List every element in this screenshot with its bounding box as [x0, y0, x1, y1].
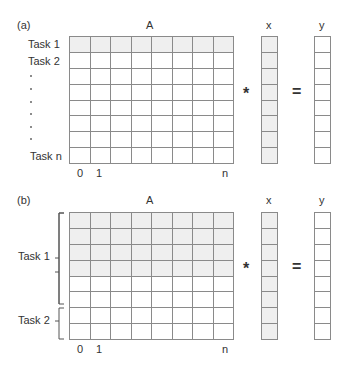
- matrix-cell: [111, 213, 132, 229]
- matrix-cell: [91, 101, 112, 117]
- matrix-cell: [315, 292, 331, 308]
- col-label-n: n: [222, 167, 228, 179]
- matrix-a-grid: [69, 212, 234, 340]
- matrix-cell: [315, 213, 331, 229]
- matrix-cell: [193, 37, 214, 53]
- matrix-cell: [262, 229, 278, 245]
- matrix-cell: [262, 292, 278, 308]
- matrix-cell: [173, 213, 194, 229]
- matrix-cell: [152, 37, 173, 53]
- matrix-cell: [315, 101, 331, 117]
- row-label-task-2: Task 2: [28, 55, 60, 67]
- matrix-cell: [214, 85, 235, 101]
- matrix-cell: [152, 245, 173, 261]
- matrix-cell: [214, 292, 235, 308]
- matrix-cell: [173, 324, 194, 340]
- ellipsis-dot: [30, 88, 32, 90]
- matrix-cell: [214, 101, 235, 117]
- matrix-cell: [132, 85, 153, 101]
- matrix-cell: [152, 53, 173, 69]
- matrix-cell: [111, 245, 132, 261]
- matrix-cell: [193, 292, 214, 308]
- multiply-symbol: *: [243, 85, 249, 103]
- matrix-cell: [173, 277, 194, 293]
- matrix-cell: [214, 277, 235, 293]
- matrix-cell: [152, 116, 173, 132]
- matrix-cell: [111, 308, 132, 324]
- matrix-cell: [173, 53, 194, 69]
- matrix-cell: [91, 261, 112, 277]
- matrix-cell: [152, 69, 173, 85]
- matrix-cell: [315, 308, 331, 324]
- matrix-cell: [193, 261, 214, 277]
- matrix-cell: [132, 132, 153, 148]
- matrix-cell: [70, 132, 91, 148]
- matrix-cell: [262, 85, 278, 101]
- panel-b-label: (b): [17, 194, 30, 206]
- matrix-cell: [173, 116, 194, 132]
- matrix-cell: [91, 229, 112, 245]
- multiply-symbol: *: [243, 260, 249, 278]
- matrix-cell: [193, 53, 214, 69]
- ellipsis-dot: [30, 101, 32, 103]
- matrix-cell: [214, 229, 235, 245]
- matrix-cell: [91, 53, 112, 69]
- matrix-cell: [111, 69, 132, 85]
- matrix-cell: [193, 308, 214, 324]
- matrix-cell: [70, 53, 91, 69]
- matrix-cell: [193, 229, 214, 245]
- matrix-cell: [173, 132, 194, 148]
- matrix-cell: [193, 148, 214, 164]
- matrix-cell: [173, 308, 194, 324]
- matrix-cell: [315, 132, 331, 148]
- matrix-cell: [152, 85, 173, 101]
- ellipsis-dot: [30, 75, 32, 77]
- matrix-a-label: A: [146, 194, 153, 206]
- matrix-cell: [173, 85, 194, 101]
- vector-y-label: y: [319, 19, 325, 31]
- matrix-cell: [70, 213, 91, 229]
- matrix-cell: [111, 37, 132, 53]
- matrix-cell: [152, 101, 173, 117]
- matrix-cell: [315, 85, 331, 101]
- matrix-cell: [111, 85, 132, 101]
- matrix-cell: [193, 324, 214, 340]
- matrix-cell: [152, 324, 173, 340]
- col-label-n: n: [222, 343, 228, 355]
- matrix-cell: [193, 245, 214, 261]
- matrix-cell: [214, 324, 235, 340]
- matrix-cell: [152, 229, 173, 245]
- matrix-cell: [111, 292, 132, 308]
- matrix-cell: [111, 229, 132, 245]
- matrix-cell: [111, 277, 132, 293]
- vector-y-grid: [314, 36, 331, 164]
- matrix-cell: [132, 148, 153, 164]
- matrix-cell: [214, 245, 235, 261]
- matrix-cell: [70, 245, 91, 261]
- matrix-cell: [132, 277, 153, 293]
- matrix-cell: [262, 53, 278, 69]
- matrix-cell: [132, 213, 153, 229]
- matrix-cell: [214, 148, 235, 164]
- ellipsis-dot: [30, 126, 32, 128]
- matrix-cell: [315, 261, 331, 277]
- matrix-cell: [315, 324, 331, 340]
- matrix-cell: [91, 245, 112, 261]
- matrix-cell: [193, 213, 214, 229]
- matrix-cell: [132, 292, 153, 308]
- matrix-cell: [132, 261, 153, 277]
- panel-a-label: (a): [17, 19, 30, 31]
- matrix-cell: [152, 148, 173, 164]
- vector-x-label: x: [266, 19, 272, 31]
- matrix-cell: [132, 229, 153, 245]
- matrix-cell: [91, 277, 112, 293]
- matrix-cell: [111, 53, 132, 69]
- matrix-cell: [91, 213, 112, 229]
- vector-x-grid: [261, 36, 278, 164]
- matrix-cell: [173, 261, 194, 277]
- matrix-cell: [262, 261, 278, 277]
- matrix-cell: [262, 308, 278, 324]
- matrix-cell: [132, 37, 153, 53]
- matrix-cell: [70, 37, 91, 53]
- matrix-cell: [152, 132, 173, 148]
